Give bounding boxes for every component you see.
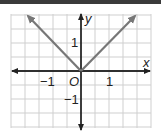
x-tick-neg1: −1 xyxy=(40,74,55,89)
x-axis-label: x xyxy=(142,55,150,70)
coordinate-plane: y x O −1 1 1 −1 xyxy=(0,0,161,137)
x-tick-pos1: 1 xyxy=(106,74,113,89)
y-tick-pos1: 1 xyxy=(71,35,78,50)
y-tick-neg1: −1 xyxy=(64,92,79,107)
origin-label: O xyxy=(69,74,79,89)
y-axis-label: y xyxy=(84,11,93,26)
